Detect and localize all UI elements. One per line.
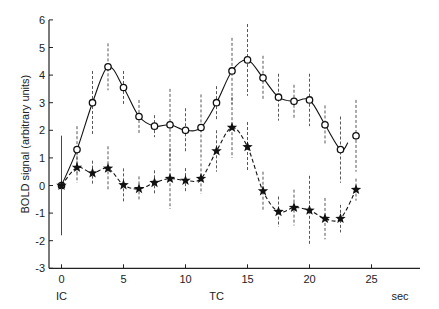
circle-marker <box>151 123 157 129</box>
star-marker <box>72 162 82 172</box>
x-tick-label: 15 <box>241 273 253 285</box>
circle-marker <box>337 146 343 152</box>
y-tick-label: 1 <box>39 152 45 164</box>
circle-marker <box>353 133 359 139</box>
circle-marker <box>322 122 328 128</box>
series-line <box>62 128 357 222</box>
bold-signal-chart: -3-2-101234560510152025ICTCsecBOLD signa… <box>0 0 439 309</box>
y-tick-label: 5 <box>39 42 45 54</box>
star-marker <box>351 184 361 194</box>
circle-marker <box>89 100 95 106</box>
x-annotation: TC <box>209 290 224 302</box>
circle-marker <box>275 94 281 100</box>
circle-marker <box>291 98 297 104</box>
y-tick-label: -3 <box>35 262 45 274</box>
x-tick-label: 20 <box>303 273 315 285</box>
x-tick-label: 25 <box>365 273 377 285</box>
circle-marker <box>74 146 80 152</box>
circle-marker <box>306 97 312 103</box>
y-tick-label: 6 <box>39 14 45 26</box>
x-tick-label: 0 <box>58 273 64 285</box>
y-tick-label: 0 <box>39 180 45 192</box>
circle-marker <box>182 127 188 133</box>
y-axis-label: BOLD signal (arbitrary units) <box>19 75 31 214</box>
star-marker <box>211 146 221 156</box>
x-axis-label: sec <box>391 290 409 302</box>
circle-marker <box>244 57 250 63</box>
star-marker <box>320 213 330 223</box>
x-tick-label: 5 <box>120 273 126 285</box>
x-tick-label: 10 <box>179 273 191 285</box>
circle-marker <box>213 100 219 106</box>
y-tick-label: 4 <box>39 69 45 81</box>
circle-marker <box>260 75 266 81</box>
circle-marker <box>136 113 142 119</box>
circle-marker <box>198 124 204 130</box>
star-marker <box>165 173 175 183</box>
y-tick-label: 2 <box>39 124 45 136</box>
star-marker <box>273 206 283 216</box>
y-tick-label: -2 <box>35 235 45 247</box>
circle-marker <box>167 122 173 128</box>
y-tick-label: 3 <box>39 97 45 109</box>
circle-marker <box>105 64 111 70</box>
circle-marker <box>229 68 235 74</box>
y-tick-label: -1 <box>35 207 45 219</box>
x-annotation: IC <box>56 290 67 302</box>
circle-marker <box>120 84 126 90</box>
